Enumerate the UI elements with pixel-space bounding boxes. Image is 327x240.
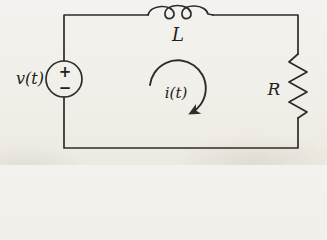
mesh-current-label: i(t) <box>165 84 188 102</box>
source-label: v(t) <box>16 69 44 88</box>
resistor-symbol <box>289 54 307 118</box>
circuit-diagram: v(t) + − L R i(t) <box>0 0 327 165</box>
inductor-symbol <box>148 6 213 19</box>
circuit-canvas: v(t) + − L R i(t) <box>0 0 327 165</box>
wire-bottom <box>64 97 298 148</box>
wire-top-left <box>64 15 148 61</box>
wire-top-right <box>213 15 298 54</box>
inductor-label: L <box>171 24 184 45</box>
source-minus-sign: − <box>59 79 72 97</box>
resistor-label: R <box>267 79 281 99</box>
